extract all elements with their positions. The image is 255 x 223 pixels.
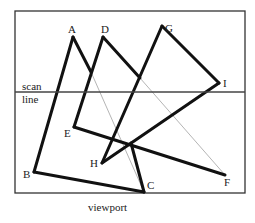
vertex-label-d: D [101, 23, 109, 35]
vertex-label-i: I [223, 77, 227, 89]
viewport-caption: viewport [88, 201, 127, 213]
scan-line-label-2: line [22, 93, 39, 105]
vertex-label-e: E [64, 127, 71, 139]
vertex-label-b: B [23, 168, 30, 180]
vertex-label-c: C [147, 179, 154, 191]
vertex-label-h: H [90, 157, 98, 169]
scan-line-label-1: scan [22, 80, 42, 92]
hidden-edge-ac [91, 72, 144, 192]
triangle-abc [34, 37, 144, 192]
vertex-label-a: A [68, 23, 76, 35]
vertex-label-f: F [224, 176, 230, 188]
vertex-label-g: G [165, 22, 173, 34]
scan-line-diagram: scan line A D G I E H B C F viewport [0, 0, 255, 223]
